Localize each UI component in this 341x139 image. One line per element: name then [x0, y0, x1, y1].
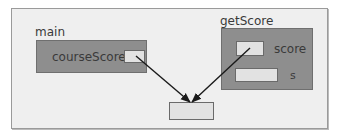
arrow-coursescore: [136, 56, 190, 102]
reference-arrows: [0, 0, 341, 139]
arrow-score: [192, 48, 250, 102]
